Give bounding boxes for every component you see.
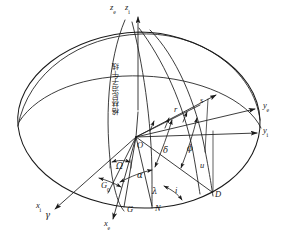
point-label-N: N	[155, 204, 161, 213]
meridian-circle-secondary	[132, 22, 152, 208]
axis-x-i	[55, 137, 136, 209]
axis-label-y-i: yi	[263, 126, 268, 137]
angle-label-alpha: α	[137, 171, 143, 180]
axis-label-z-e: ze	[110, 3, 116, 14]
axis-label-y-e: ye	[263, 101, 269, 112]
angle-arc-group	[99, 112, 197, 200]
angle-label-omega: Ω	[116, 162, 123, 171]
upper-great-circle-arc	[18, 34, 260, 126]
angle-label-lambda: λ	[152, 187, 157, 196]
point-label-G0: G0	[101, 181, 110, 192]
axis-z-lower	[136, 112, 138, 137]
point-label-r: r	[174, 105, 177, 114]
axis-label-z-i: zi	[125, 3, 130, 14]
angle-label-i: i	[175, 186, 177, 195]
arc-r-tick	[165, 118, 169, 128]
angle-label-phi: ϕ	[187, 144, 193, 153]
angle-label-delta: δ	[163, 146, 168, 155]
arc-u-tick	[150, 121, 154, 131]
sphere-outline	[18, 32, 260, 208]
angle-label-u: u	[200, 161, 204, 170]
arc-delta	[155, 120, 172, 167]
axis-y-i	[136, 133, 257, 137]
equator-circle	[19, 76, 261, 128]
figure-root: ze zi ye yi xi xe O G0 G N D γ s r Ω α δ…	[0, 0, 290, 247]
point-label-s: s	[200, 96, 203, 105]
greenwich-meridian-label: 格林尼治子午线	[110, 64, 121, 116]
axis-label-x-i: xi	[36, 201, 41, 212]
point-label-D: D	[215, 190, 221, 199]
celestial-sphere-diagram	[0, 0, 290, 247]
projection-line-s	[205, 99, 208, 152]
point-label-O: O	[137, 141, 143, 150]
axis-label-x-e: xe	[104, 219, 110, 230]
point-label-G: G	[127, 205, 133, 214]
point-label-gamma: γ	[45, 211, 50, 220]
arc-i	[164, 186, 182, 200]
